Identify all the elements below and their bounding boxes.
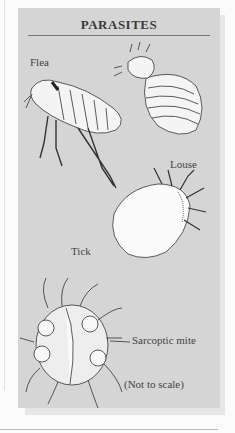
bottom-divider (0, 429, 218, 430)
parasites-panel: PARASITES (18, 8, 220, 408)
tick-label: Tick (71, 245, 91, 257)
sarcoptic-mite-label: Sarcoptic mite (132, 334, 196, 346)
flea-illustration (24, 80, 121, 188)
page-edge-line (4, 0, 5, 390)
louse-label: Louse (170, 158, 197, 170)
tick-illustration (113, 168, 206, 258)
sarcoptic-mite-illustration (20, 278, 130, 408)
scale-note: (Not to scale) (124, 378, 184, 390)
flea-label: Flea (30, 56, 49, 68)
louse-illustration (114, 42, 202, 134)
parasite-illustrations (18, 8, 220, 408)
